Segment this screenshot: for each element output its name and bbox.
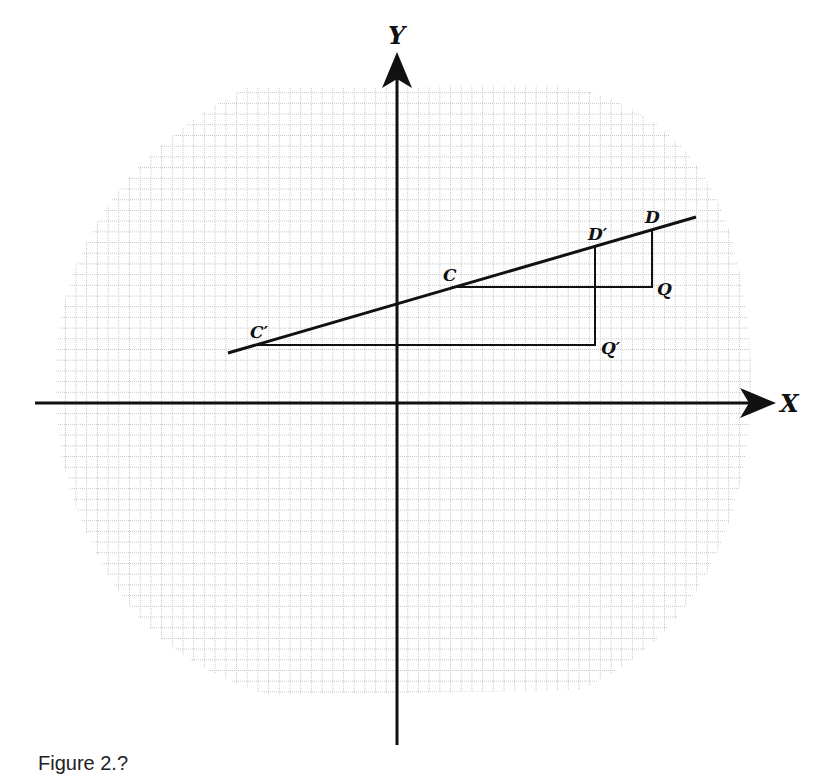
label-q-prime: Q′ — [601, 338, 621, 358]
y-axis-label: Y — [388, 21, 408, 50]
diagram: X Y C C′ D D′ Q Q′ — [0, 0, 827, 776]
label-d: D — [644, 207, 660, 227]
label-c-prime: C′ — [250, 322, 269, 342]
x-axis-label: X — [778, 389, 800, 418]
graph-paper-grid — [0, 0, 827, 776]
figure-caption: Figure 2.? — [38, 752, 128, 775]
label-c: C — [443, 265, 457, 285]
label-d-prime: D′ — [587, 224, 608, 244]
label-q: Q — [657, 279, 672, 299]
